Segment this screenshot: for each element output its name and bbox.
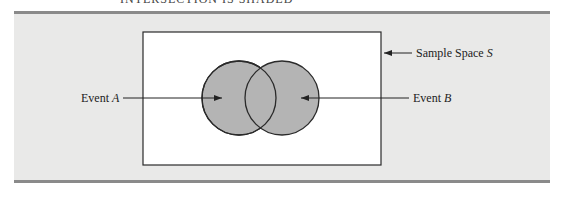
event-a-label: Event A [81,91,119,106]
sample-space-label: Sample Space S [416,46,493,61]
event-b-label: Event B [413,91,451,106]
